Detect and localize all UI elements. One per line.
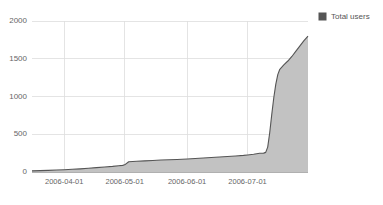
plot-area <box>32 36 308 172</box>
x-tick-label: 2006-06-01 <box>168 177 206 186</box>
y-tick-label: 0 <box>23 167 28 176</box>
x-tick-label: 2006-04-01 <box>45 177 83 186</box>
series-area-total-users <box>32 36 308 172</box>
y-tick-label: 500 <box>14 129 28 138</box>
x-tick-label: 2006-05-01 <box>105 177 143 186</box>
y-tick-label: 1500 <box>9 54 27 63</box>
series-line-total-users <box>32 36 308 171</box>
y-tick-label: 2000 <box>9 16 27 25</box>
y-axis-tick-labels: 0500100015002000 <box>9 16 27 176</box>
chart-legend[interactable]: Total users <box>319 12 370 21</box>
x-tick-label: 2006-07-01 <box>228 177 266 186</box>
legend-swatch-total-users <box>319 13 327 21</box>
chart-canvas: 0500100015002000 2006-04-012006-05-01200… <box>0 0 383 205</box>
area-chart: 0500100015002000 2006-04-012006-05-01200… <box>0 0 383 205</box>
legend-label-total-users: Total users <box>331 12 370 21</box>
y-tick-label: 1000 <box>9 92 27 101</box>
x-axis-tick-labels: 2006-04-012006-05-012006-06-012006-07-01 <box>45 177 267 186</box>
